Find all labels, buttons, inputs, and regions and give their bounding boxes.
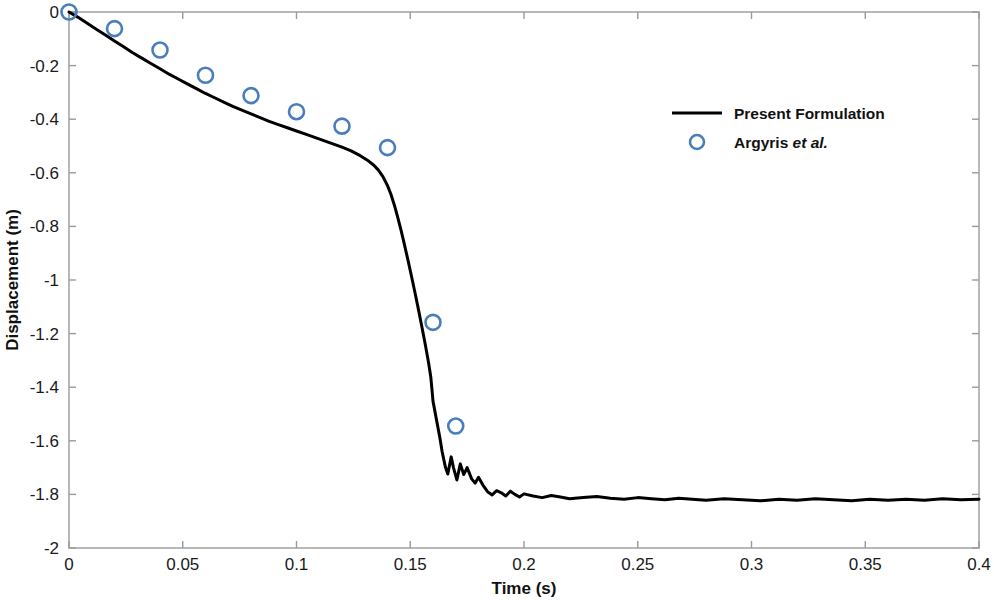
y-tick-label: -0.4 [30, 110, 59, 129]
y-tick-label: -1.4 [30, 378, 59, 397]
legend-label-argyris: Argyris et al. [734, 134, 828, 151]
x-tick-label: 0.2 [512, 555, 536, 574]
y-tick-label: 0 [50, 3, 59, 22]
y-tick-label: -2 [44, 539, 59, 558]
x-tick-label: 0.3 [740, 555, 764, 574]
x-tick-label: 0.15 [394, 555, 427, 574]
y-tick-label: -1 [44, 271, 59, 290]
chart-figure: 00.050.10.150.20.250.30.350.4 0-0.2-0.4-… [0, 0, 994, 600]
x-tick-label: 0.05 [166, 555, 199, 574]
x-tick-label: 0.1 [285, 555, 309, 574]
y-tick-label: -1.8 [30, 485, 59, 504]
x-tick-label: 0.4 [967, 555, 991, 574]
y-axis-title: Displacement (m) [3, 209, 22, 351]
plot-background [0, 0, 994, 600]
x-tick-label: 0 [64, 555, 73, 574]
x-tick-label: 0.25 [621, 555, 654, 574]
y-tick-label: -0.8 [30, 217, 59, 236]
y-tick-label: -1.6 [30, 432, 59, 451]
legend-label-present-formulation: Present Formulation [734, 105, 885, 122]
y-tick-label: -0.2 [30, 57, 59, 76]
x-tick-label: 0.35 [849, 555, 882, 574]
x-axis-title: Time (s) [492, 579, 557, 598]
y-tick-label: -0.6 [30, 164, 59, 183]
displacement-vs-time-plot: 00.050.10.150.20.250.30.350.4 0-0.2-0.4-… [0, 0, 994, 600]
y-tick-label: -1.2 [30, 325, 59, 344]
